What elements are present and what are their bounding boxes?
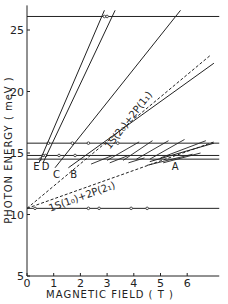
data-marker bbox=[87, 142, 90, 145]
data-marker bbox=[98, 207, 101, 210]
data-marker bbox=[74, 154, 77, 157]
y-tick-label: 25 bbox=[10, 24, 24, 37]
annotation: A bbox=[172, 161, 179, 172]
annotations: EDCBA1S(2₀)+2P(1₁)1S(1₀)+2P(2₁) bbox=[33, 89, 179, 213]
annotation: B bbox=[70, 169, 77, 180]
horizontal-lines bbox=[27, 15, 219, 209]
series-line bbox=[39, 10, 104, 163]
axes bbox=[27, 5, 219, 276]
data-marker bbox=[146, 207, 149, 210]
short-segment bbox=[91, 155, 112, 164]
annotation: C bbox=[53, 169, 60, 180]
annotation: D bbox=[42, 161, 50, 172]
series-line bbox=[43, 10, 115, 163]
data-marker bbox=[103, 15, 106, 18]
data-marker bbox=[87, 207, 90, 210]
data-marker bbox=[34, 207, 37, 210]
series-line bbox=[68, 63, 214, 168]
chart: 0123456510152025 EDCBA1S(2₀)+2P(1₁)1S(1₀… bbox=[0, 0, 228, 304]
data-marker bbox=[106, 15, 109, 18]
x-tick-label: 0 bbox=[24, 277, 31, 290]
y-axis-label: PHOTON ENERGY ( meV ) bbox=[3, 76, 14, 224]
annotation: E bbox=[33, 161, 39, 172]
x-tick-label: 6 bbox=[184, 277, 191, 290]
x-axis-label: MAGNETIC FIELD ( T ) bbox=[46, 289, 174, 300]
data-marker bbox=[58, 154, 61, 157]
data-marker bbox=[130, 207, 133, 210]
y-tick-label: 5 bbox=[17, 270, 24, 283]
